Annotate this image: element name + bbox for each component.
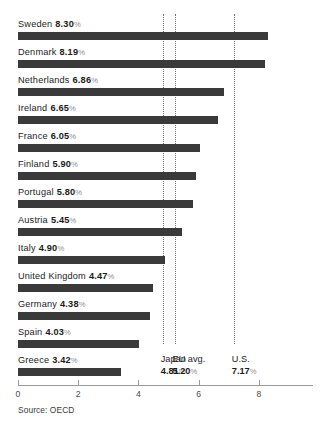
- country-value: 6.86: [73, 75, 92, 85]
- bar-row: France6.05%: [0, 130, 328, 158]
- plot-area: Sweden8.30%Denmark8.19%Netherlands6.86%I…: [0, 0, 328, 372]
- country-value: 4.38: [60, 299, 79, 309]
- bar-row-label: Austria5.45%: [18, 214, 76, 227]
- country-name: Greece: [18, 355, 49, 365]
- marker-value: 7.17%: [232, 366, 257, 378]
- percent-sign: %: [69, 132, 76, 141]
- bar: [18, 312, 150, 320]
- percent-sign: %: [190, 367, 197, 376]
- bar: [18, 256, 165, 264]
- bar-row-label: Sweden8.30%: [18, 18, 81, 31]
- bar-row: Spain4.03%: [0, 326, 328, 354]
- bar-row-label: Germany4.38%: [18, 298, 86, 311]
- bar-row-label: Ireland6.65%: [18, 102, 76, 115]
- percent-sign: %: [91, 76, 98, 85]
- percent-sign: %: [75, 188, 82, 197]
- bar-row: United Kingdom4.47%: [0, 270, 328, 298]
- country-value: 6.65: [50, 103, 69, 113]
- bar: [18, 60, 265, 68]
- bar-row-label: Portugal5.80%: [18, 186, 82, 199]
- percent-sign: %: [250, 367, 257, 376]
- x-axis-line: [18, 385, 313, 386]
- bar-row: Portugal5.80%: [0, 186, 328, 214]
- bar-row-label: Italy4.90%: [18, 242, 64, 255]
- country-value: 6.05: [51, 131, 70, 141]
- bar-row: Finland5.90%: [0, 158, 328, 186]
- country-value: 3.42: [52, 355, 71, 365]
- country-name: Netherlands: [18, 75, 70, 85]
- x-axis-tick: [259, 380, 260, 385]
- bar: [18, 172, 196, 180]
- percent-sign: %: [71, 356, 78, 365]
- country-value: 4.47: [89, 271, 108, 281]
- bar-row-label: Spain4.03%: [18, 326, 71, 339]
- country-name: Austria: [18, 215, 48, 225]
- bar: [18, 144, 200, 152]
- marker-note-u-s: U.S.7.17%: [232, 354, 257, 377]
- country-name: Italy: [18, 243, 36, 253]
- country-name: France: [18, 131, 48, 141]
- x-axis-tick: [138, 380, 139, 385]
- marker-value-number: 5.20: [173, 366, 191, 376]
- bar: [18, 340, 139, 348]
- bar-row-label: United Kingdom4.47%: [18, 270, 115, 283]
- bar-row: Germany4.38%: [0, 298, 328, 326]
- bar-chart: Sweden8.30%Denmark8.19%Netherlands6.86%I…: [0, 0, 328, 424]
- percent-sign: %: [69, 104, 76, 113]
- marker-name: EU avg.: [173, 354, 206, 366]
- country-name: United Kingdom: [18, 271, 86, 281]
- bar-row: Austria5.45%: [0, 214, 328, 242]
- country-value: 8.30: [55, 19, 74, 29]
- x-axis-tick: [199, 380, 200, 385]
- percent-sign: %: [79, 300, 86, 309]
- country-name: Sweden: [18, 19, 52, 29]
- bar-row-label: Greece3.42%: [18, 354, 78, 367]
- x-axis-tick-label: 8: [256, 389, 261, 399]
- marker-value-number: 7.17: [232, 366, 250, 376]
- country-value: 8.19: [60, 47, 79, 57]
- x-axis-tick-label: 2: [76, 389, 81, 399]
- country-value: 4.03: [45, 327, 64, 337]
- bar-row: Sweden8.30%: [0, 18, 328, 46]
- country-name: Portugal: [18, 187, 54, 197]
- country-value: 5.80: [57, 187, 76, 197]
- x-axis-tick: [18, 380, 19, 385]
- marker-note-eu-avg: EU avg.5.20%: [173, 354, 206, 377]
- marker-value: 5.20%: [173, 366, 206, 378]
- x-axis-tick-label: 4: [136, 389, 141, 399]
- country-name: Denmark: [18, 47, 57, 57]
- x-axis-tick-label: 6: [196, 389, 201, 399]
- country-value: 4.90: [39, 243, 58, 253]
- marker-name: U.S.: [232, 354, 257, 366]
- country-name: Ireland: [18, 103, 47, 113]
- percent-sign: %: [74, 20, 81, 29]
- x-axis-tick: [78, 380, 79, 385]
- bar: [18, 284, 153, 292]
- bar: [18, 116, 218, 124]
- percent-sign: %: [78, 48, 85, 57]
- bar-row-label: Netherlands6.86%: [18, 74, 98, 87]
- bar-row-label: Denmark8.19%: [18, 46, 85, 59]
- percent-sign: %: [70, 216, 77, 225]
- bar: [18, 32, 268, 40]
- percent-sign: %: [64, 328, 71, 337]
- percent-sign: %: [108, 272, 115, 281]
- country-name: Finland: [18, 159, 49, 169]
- bar: [18, 88, 224, 96]
- bar: [18, 200, 193, 208]
- bar-row-label: France6.05%: [18, 130, 76, 143]
- bar-row: Denmark8.19%: [0, 46, 328, 74]
- source-note: Source: OECD: [18, 405, 74, 415]
- bar: [18, 368, 121, 376]
- bar: [18, 228, 182, 236]
- bar-row: Ireland6.65%: [0, 102, 328, 130]
- percent-sign: %: [71, 160, 78, 169]
- x-axis-tick-label: 0: [16, 389, 21, 399]
- country-name: Spain: [18, 327, 42, 337]
- bar-row: Italy4.90%: [0, 242, 328, 270]
- bar-row-label: Finland5.90%: [18, 158, 78, 171]
- bar-row: Netherlands6.86%: [0, 74, 328, 102]
- country-value: 5.90: [52, 159, 71, 169]
- country-name: Germany: [18, 299, 57, 309]
- percent-sign: %: [57, 244, 64, 253]
